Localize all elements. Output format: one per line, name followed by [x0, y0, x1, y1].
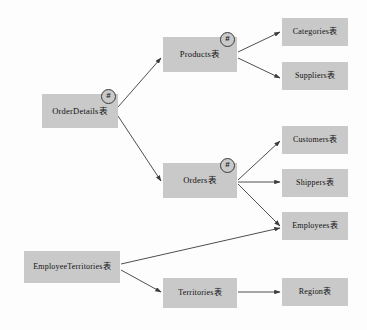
table-node-label: Region表 — [299, 288, 332, 296]
relationship-arrow-employee-territories-to-territories — [121, 270, 161, 292]
relationship-arrow-products-to-categories — [238, 32, 280, 52]
primary-key-badge-icon: # — [220, 158, 235, 173]
table-node-label: OrderDetails表 — [52, 107, 108, 116]
relationship-arrow-order-details-to-products — [118, 58, 161, 107]
relationship-arrow-products-to-suppliers — [238, 58, 280, 78]
table-node-categories[interactable]: Categories表 — [282, 18, 348, 46]
er-diagram-canvas: OrderDetails表#Products表#Orders表#Categori… — [0, 0, 367, 330]
table-node-label: Shippers表 — [296, 179, 334, 187]
table-node-label: EmployeeTerritories表 — [33, 263, 111, 271]
table-node-label: Territories表 — [178, 289, 222, 297]
table-node-employee-territories[interactable]: EmployeeTerritories表 — [24, 251, 120, 283]
table-node-customers[interactable]: Customers表 — [282, 126, 348, 154]
relationship-arrow-employee-territories-to-employees — [121, 228, 280, 264]
relationship-arrow-orders-to-customers — [238, 141, 280, 180]
table-node-territories[interactable]: Territories表 — [163, 278, 237, 308]
table-node-employees[interactable]: Employees表 — [282, 212, 348, 240]
relationship-arrow-order-details-to-orders — [118, 116, 161, 181]
table-node-label: Customers表 — [293, 136, 337, 144]
table-node-label: Categories表 — [293, 28, 337, 36]
relationship-arrow-orders-to-employees — [238, 184, 280, 226]
table-node-label: Employees表 — [292, 222, 338, 230]
table-node-label: Suppliers表 — [295, 72, 335, 80]
table-node-suppliers[interactable]: Suppliers表 — [282, 62, 348, 90]
table-node-label: Orders表 — [183, 176, 217, 185]
primary-key-badge-icon: # — [101, 89, 116, 104]
table-node-region[interactable]: Region表 — [282, 278, 348, 306]
table-node-shippers[interactable]: Shippers表 — [282, 169, 348, 197]
primary-key-badge-icon: # — [220, 32, 235, 47]
table-node-label: Products表 — [180, 50, 221, 59]
